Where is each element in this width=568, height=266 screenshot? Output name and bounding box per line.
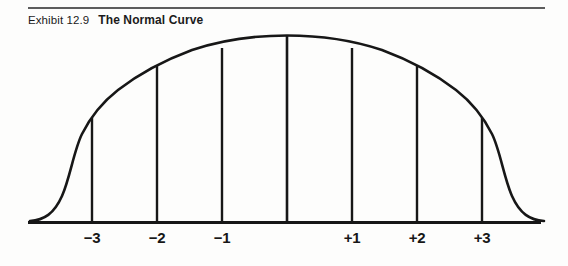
x-tick-label-plus2: +2	[397, 229, 437, 246]
x-tick-label-plus3: +3	[462, 229, 502, 246]
x-tick-label-minus2: −2	[137, 229, 177, 246]
x-tick-label-minus1: −1	[202, 229, 242, 246]
exhibit-figure: Exhibit 12.9The Normal Curve −3 −2 −1 +1…	[0, 0, 568, 266]
x-tick-label-plus1: +1	[332, 229, 372, 246]
x-tick-label-minus3: −3	[72, 229, 112, 246]
normal-curve-svg	[0, 0, 568, 266]
normal-curve-plot	[0, 0, 568, 266]
